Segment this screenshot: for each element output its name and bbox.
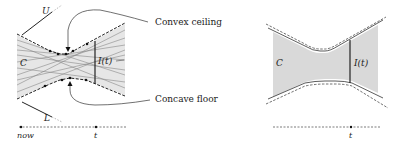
lower-bound-extension	[52, 117, 62, 122]
right-region-label: C	[276, 58, 283, 68]
upper-bound-extension	[52, 5, 62, 12]
now-marker	[20, 126, 22, 128]
right-figure: I(t) C t	[266, 17, 388, 140]
convex-ceiling-label: Convex ceiling	[155, 17, 222, 27]
ceiling-arrowhead	[66, 47, 71, 52]
left-time-marker	[95, 126, 97, 128]
now-label: now	[17, 131, 34, 140]
right-time-label: t	[349, 131, 353, 140]
right-interval-label: I(t)	[353, 58, 369, 68]
floor-arrowhead	[68, 81, 73, 86]
right-time-marker	[350, 126, 352, 128]
left-interval-label: I(t)	[97, 56, 113, 66]
diagram-canvas: U L I(t) C Convex ceiling Concave floor	[0, 0, 400, 143]
upper-bound-label: U	[42, 6, 50, 16]
left-time-label: t	[94, 131, 98, 140]
lower-bound-label: L	[43, 113, 50, 123]
left-figure: U L I(t) C Convex ceiling Concave floor	[17, 5, 222, 140]
left-region-label: C	[20, 58, 27, 68]
concave-floor-label: Concave floor	[155, 94, 219, 104]
